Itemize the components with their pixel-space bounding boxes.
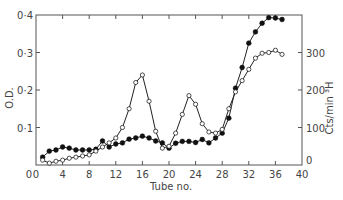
y-left-tick-label: 0	[26, 169, 32, 180]
axis-ticks	[36, 15, 302, 165]
counts-point	[280, 52, 284, 56]
chart: 0481216202428323640 00·10·20·30·4 010020…	[0, 0, 343, 200]
counts-point	[100, 145, 104, 149]
counts-point	[127, 107, 131, 111]
counts-point	[227, 107, 231, 111]
counts-point	[94, 149, 98, 153]
counts-point	[194, 102, 198, 106]
y-left-tick-label: 0·2	[17, 85, 33, 96]
od-point	[207, 140, 212, 145]
od-point	[213, 136, 218, 141]
od-point	[74, 148, 79, 153]
y-left-tick-label: 0·1	[17, 123, 33, 134]
y-right-tick-label: 100	[306, 123, 325, 134]
x-tick-label: 20	[163, 169, 176, 180]
od-point	[240, 65, 245, 70]
y-right-tick-labels: 0100200300	[306, 48, 325, 167]
counts-point	[240, 79, 244, 83]
counts-point	[134, 80, 138, 84]
y-right-tick-label: 200	[306, 85, 325, 96]
od-point	[140, 134, 145, 139]
od-point	[133, 136, 138, 141]
od-point	[280, 17, 285, 22]
y-right-tick-label: 300	[306, 48, 325, 59]
y-left-axis-label: O.D.	[4, 87, 15, 109]
x-tick-label: 16	[136, 169, 149, 180]
od-point	[54, 148, 59, 153]
od-point	[187, 139, 192, 144]
od-point	[180, 139, 185, 144]
series-markers	[40, 15, 284, 165]
x-tick-labels: 0481216202428323640	[33, 169, 309, 180]
od-point	[253, 29, 258, 34]
od-point	[120, 140, 125, 145]
counts-point	[147, 99, 151, 103]
counts-point	[273, 48, 277, 52]
x-tick-label: 4	[59, 169, 65, 180]
od-point	[47, 149, 52, 154]
counts-point	[41, 158, 45, 162]
od-line	[43, 18, 282, 158]
od-point	[193, 140, 198, 145]
counts-point	[253, 56, 257, 60]
counts-point	[80, 154, 84, 158]
od-point	[147, 136, 152, 141]
counts-point	[247, 67, 251, 71]
counts-point	[54, 159, 58, 163]
x-axis-label: Tube no.	[149, 181, 192, 192]
counts-point	[67, 156, 71, 160]
y-left-tick-labels: 00·10·20·30·4	[17, 10, 33, 180]
counts-point	[47, 161, 51, 165]
x-tick-label: 24	[189, 169, 202, 180]
counts-point	[167, 144, 171, 148]
counts-point	[114, 136, 118, 140]
od-point	[200, 137, 205, 142]
counts-point	[260, 51, 264, 55]
x-tick-label: 36	[269, 169, 282, 180]
y-right-axis-label: Cts/min ³H	[324, 81, 335, 134]
od-point	[87, 148, 92, 153]
od-point	[260, 21, 265, 26]
od-point	[60, 145, 65, 150]
counts-point	[107, 141, 111, 145]
counts-point	[61, 158, 65, 162]
counts-point	[207, 130, 211, 134]
x-tick-label: 32	[242, 169, 255, 180]
od-point	[160, 140, 165, 145]
counts-point	[267, 50, 271, 54]
counts-point	[120, 125, 124, 129]
counts-point	[140, 73, 144, 77]
counts-point	[154, 129, 158, 133]
x-tick-label: 28	[216, 169, 229, 180]
od-point	[266, 15, 271, 20]
x-tick-label: 8	[86, 169, 92, 180]
od-point	[153, 139, 158, 144]
x-tick-label: 12	[109, 169, 122, 180]
od-point	[67, 146, 72, 151]
x-tick-label: 40	[296, 169, 309, 180]
od-point	[246, 41, 251, 46]
od-point	[173, 141, 178, 146]
od-point	[80, 148, 85, 153]
counts-point	[200, 122, 204, 126]
od-point	[100, 139, 105, 144]
counts-point	[213, 131, 217, 135]
y-left-tick-label: 0·3	[17, 48, 33, 59]
od-point	[273, 16, 278, 21]
counts-point	[220, 127, 224, 131]
x-tick-label: 0	[33, 169, 39, 180]
od-point	[113, 142, 118, 147]
counts-point	[187, 94, 191, 98]
od-point	[226, 116, 231, 121]
counts-point	[174, 131, 178, 135]
counts-point	[233, 90, 237, 94]
counts-point	[74, 155, 78, 159]
counts-point	[180, 112, 184, 116]
counts-point	[160, 146, 164, 150]
plot-frame	[36, 15, 302, 165]
od-point	[127, 137, 132, 142]
counts-point	[87, 153, 91, 157]
y-right-tick-label: 0	[306, 155, 312, 166]
y-left-tick-label: 0·4	[17, 10, 33, 21]
